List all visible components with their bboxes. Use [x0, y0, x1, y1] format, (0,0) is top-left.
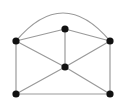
graph-vertex	[12, 90, 19, 97]
graph-edge	[16, 29, 65, 41]
graph-figure	[0, 0, 124, 104]
graph-canvas	[0, 0, 124, 104]
graph-edge	[16, 41, 65, 67]
graph-vertex	[106, 37, 113, 44]
graph-edge	[65, 67, 110, 94]
edge-layer	[16, 13, 110, 94]
graph-vertex	[61, 63, 68, 70]
graph-vertex	[12, 37, 19, 44]
graph-edge	[65, 29, 110, 41]
graph-edge	[16, 67, 65, 94]
graph-vertex	[61, 25, 68, 32]
graph-edge	[65, 41, 110, 67]
graph-vertex	[106, 90, 113, 97]
